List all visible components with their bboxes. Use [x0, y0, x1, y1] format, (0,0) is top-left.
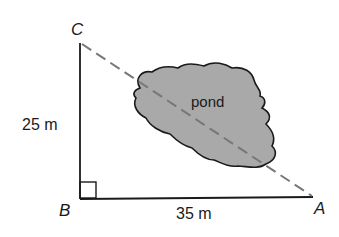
pond-label: pond — [191, 93, 224, 110]
triangle-pond-diagram: C B A 25 m 35 m pond — [0, 0, 339, 237]
side-label-bc: 25 m — [22, 116, 58, 133]
side-label-ba: 35 m — [176, 205, 212, 222]
vertex-label-a: A — [313, 199, 325, 218]
vertex-label-c: C — [71, 20, 84, 39]
pond-region — [134, 63, 275, 167]
right-angle-marker — [80, 182, 96, 198]
vertex-label-b: B — [59, 201, 70, 220]
side-ba — [80, 197, 313, 199]
